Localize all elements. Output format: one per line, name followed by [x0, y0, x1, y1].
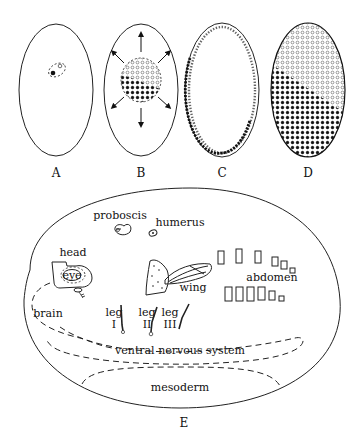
label-mesoderm: mesoderm — [151, 381, 210, 394]
panel-label-e: E — [180, 416, 189, 430]
label-leg-3-numeral: III — [163, 318, 176, 331]
label-proboscis: proboscis — [93, 209, 147, 222]
peripheral-filled-nuclei — [185, 58, 250, 153]
nucleus-region — [46, 60, 68, 79]
label-ventral-nervous-system: ventral nervous system — [114, 344, 245, 357]
panel-label-c: C — [217, 166, 226, 180]
egg-outline-a — [19, 24, 93, 156]
antenna-disc — [74, 288, 82, 292]
panel-e: proboscis humerus head eye brain leg I l… — [24, 188, 340, 430]
panel-label-d: D — [303, 166, 313, 180]
label-eye: eye — [62, 269, 81, 282]
label-wing: wing — [179, 281, 206, 294]
wing-base-disc — [146, 260, 168, 295]
wing-base-dots — [151, 265, 163, 289]
fate-map-diagram: A B C D — [0, 0, 364, 444]
label-abdomen: abdomen — [246, 271, 297, 284]
panel-label-a: A — [51, 166, 61, 180]
egg-outline-c — [185, 23, 259, 157]
label-brain: brain — [33, 307, 62, 320]
proboscis-disc — [115, 224, 131, 234]
antenna-arrow — [79, 292, 85, 298]
panel-b: B — [104, 24, 178, 180]
label-leg-1-numeral: I — [112, 318, 116, 331]
open-nucleus — [58, 64, 62, 68]
abdomen-histoblasts-lower — [225, 287, 284, 301]
panel-d: D — [268, 20, 348, 180]
label-leg-2-numeral: II — [143, 318, 152, 331]
label-head: head — [59, 246, 86, 259]
panel-label-b: B — [137, 166, 146, 180]
panel-a: A — [19, 24, 93, 180]
panel-c: C — [185, 23, 259, 180]
label-humerus: humerus — [155, 216, 204, 229]
filled-nucleus — [51, 71, 56, 76]
leg-3-disc — [179, 304, 189, 329]
abdomen-histoblasts-upper — [218, 249, 295, 273]
